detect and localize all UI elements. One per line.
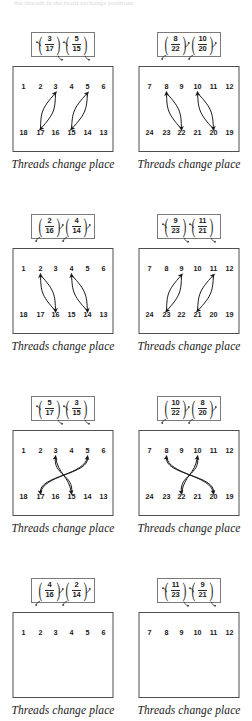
right-paren: )	[183, 582, 187, 598]
svg-text:8: 8	[165, 264, 169, 273]
svg-text:21: 21	[194, 492, 202, 501]
diagram-block: (822)(1020)789101112242322212019Threads …	[126, 18, 252, 200]
svg-text:1: 1	[22, 628, 26, 637]
cycle-pair: (1020)	[189, 35, 216, 53]
cycle-numerator: 11	[172, 581, 180, 589]
svg-text:14: 14	[84, 310, 92, 319]
left-paren: (	[165, 582, 169, 598]
svg-text:18: 18	[20, 492, 28, 501]
svg-text:19: 19	[226, 128, 234, 137]
cycle-pair: (1123)	[162, 581, 189, 599]
cycle-numerator: 4	[48, 581, 52, 589]
cycle-pair: (416)	[36, 581, 63, 599]
cycle-fraction: 214	[71, 581, 82, 599]
right-paren: )	[183, 218, 187, 234]
svg-text:16: 16	[52, 310, 60, 319]
svg-text:9: 9	[180, 628, 184, 637]
block-caption: Threads change place	[126, 158, 252, 170]
left-paren: (	[39, 36, 43, 52]
right-paren: )	[210, 36, 214, 52]
diagram-row: (416)(214)123456Threads change place(112…	[0, 564, 252, 721]
block-caption: Threads change place	[0, 158, 126, 170]
svg-text:2: 2	[39, 264, 43, 273]
left-paren: (	[192, 400, 196, 416]
svg-text:8: 8	[165, 82, 169, 91]
cycle-numerator: 5	[48, 399, 52, 407]
svg-text:2: 2	[39, 446, 43, 455]
cycle-fraction: 517	[44, 399, 55, 417]
cycle-numerator: 3	[48, 35, 52, 43]
cycle-numerator: 9	[174, 217, 178, 225]
svg-text:1: 1	[22, 82, 26, 91]
cycle-numerator: 2	[48, 217, 52, 225]
cycle-fraction: 317	[44, 35, 55, 53]
svg-text:11: 11	[210, 264, 218, 273]
cycle-numerator: 2	[75, 581, 79, 589]
svg-text:3: 3	[54, 264, 58, 273]
svg-text:4: 4	[70, 82, 74, 91]
right-paren: )	[57, 218, 61, 234]
left-paren: (	[165, 36, 169, 52]
svg-text:10: 10	[194, 82, 202, 91]
block-caption: Threads change place	[0, 522, 126, 534]
cycle-notation-box: (1022)(820)	[157, 396, 221, 421]
cycle-pair: (317)	[36, 35, 63, 53]
cycle-denominator: 22	[172, 45, 180, 53]
cycle-pair: (820)	[189, 399, 216, 417]
diagram-block: (416)(214)123456Threads change place	[0, 564, 126, 721]
cycle-fraction: 822	[170, 35, 181, 53]
thread-diagram-box: 789101112	[139, 612, 240, 698]
right-paren: )	[210, 218, 214, 234]
diagram-block: (216)(414)123456181716151413Threads chan…	[0, 200, 126, 382]
right-paren: )	[84, 400, 88, 416]
cycle-fraction: 1020	[197, 35, 208, 53]
svg-text:7: 7	[148, 628, 152, 637]
svg-text:23: 23	[163, 492, 171, 501]
cut-off-header-text: the threads in the braid exchange positi…	[14, 0, 238, 7]
right-paren: )	[84, 582, 88, 598]
svg-text:4: 4	[70, 264, 74, 273]
svg-text:22: 22	[178, 128, 186, 137]
cycle-denominator: 23	[172, 591, 180, 599]
svg-text:12: 12	[226, 82, 234, 91]
svg-text:12: 12	[226, 264, 234, 273]
cycle-denominator: 21	[199, 227, 207, 235]
cycle-fraction: 820	[197, 399, 208, 417]
cycle-denominator: 14	[73, 227, 81, 235]
svg-text:6: 6	[102, 264, 106, 273]
thread-diagram-box: 123456181716151413	[13, 248, 114, 334]
svg-text:13: 13	[100, 310, 108, 319]
diagram-block: (517)(315)123456181716151413Threads chan…	[0, 382, 126, 564]
svg-text:16: 16	[52, 492, 60, 501]
right-paren: )	[57, 582, 61, 598]
cycle-pair: (923)	[162, 217, 189, 235]
cycle-notation-box: (416)(214)	[31, 578, 95, 603]
svg-text:5: 5	[86, 264, 90, 273]
svg-text:8: 8	[165, 446, 169, 455]
cycle-pair: (515)	[63, 35, 90, 53]
cycle-notation-box: (1123)(921)	[157, 578, 221, 603]
cycle-denominator: 15	[73, 409, 81, 417]
svg-text:23: 23	[163, 310, 171, 319]
svg-text:14: 14	[84, 128, 92, 137]
svg-text:14: 14	[84, 492, 92, 501]
svg-text:2: 2	[39, 82, 43, 91]
cycle-denominator: 20	[199, 409, 207, 417]
cycle-denominator: 22	[172, 409, 180, 417]
cycle-denominator: 17	[46, 409, 54, 417]
svg-text:8: 8	[165, 628, 169, 637]
svg-text:13: 13	[100, 492, 108, 501]
right-paren: )	[210, 582, 214, 598]
cycle-notation-box: (317)(515)	[31, 32, 95, 57]
left-paren: (	[39, 400, 43, 416]
svg-text:22: 22	[178, 492, 186, 501]
svg-text:2: 2	[39, 628, 43, 637]
svg-text:17: 17	[37, 128, 45, 137]
block-caption: Threads change place	[126, 704, 252, 716]
cycle-denominator: 21	[199, 591, 207, 599]
svg-text:19: 19	[226, 492, 234, 501]
diagram-row: (216)(414)123456181716151413Threads chan…	[0, 200, 252, 382]
right-paren: )	[210, 400, 214, 416]
thread-diagram-box: 789101112242322212019	[139, 248, 240, 334]
